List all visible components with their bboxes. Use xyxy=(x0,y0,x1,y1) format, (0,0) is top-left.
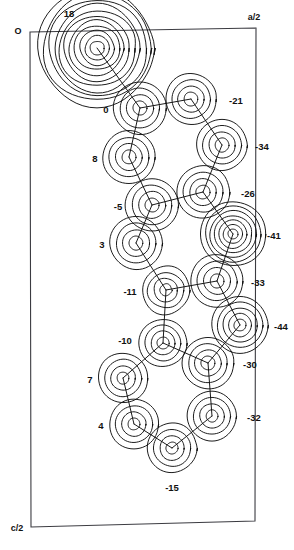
contour-map-canvas: 180-21-348-26-5-413-33-11-44-10-307-324-… xyxy=(0,0,294,550)
bond-line xyxy=(191,99,222,145)
atom-value-label: -15 xyxy=(165,482,179,493)
atom-value-labels: 180-21-348-26-5-413-33-11-44-10-307-324-… xyxy=(64,8,289,493)
atom-contour-18 xyxy=(38,0,156,108)
atom-value-label: -11 xyxy=(123,286,137,297)
atom-value-label: -30 xyxy=(243,359,257,370)
atom-value-label: -44 xyxy=(274,321,288,332)
origin-label: O xyxy=(14,26,21,36)
bond-line xyxy=(172,416,212,448)
contour-rings xyxy=(38,0,269,473)
atom-value-label: 18 xyxy=(64,8,75,19)
a-half-label: a/2 xyxy=(248,12,261,22)
bond-line xyxy=(136,205,152,243)
atom-value-label: 0 xyxy=(103,104,108,115)
unit-cell-outline xyxy=(30,28,256,527)
atom-value-label: 7 xyxy=(87,374,92,385)
atom-value-label: -21 xyxy=(229,95,243,106)
atom-value-label: 4 xyxy=(98,420,104,431)
bond-network xyxy=(97,48,240,448)
atom-value-label: -26 xyxy=(241,188,255,199)
contour-map-figure: 180-21-348-26-5-413-33-11-44-10-307-324-… xyxy=(0,0,294,550)
atom-value-label: -33 xyxy=(251,277,265,288)
bond-line xyxy=(163,290,166,343)
bond-line xyxy=(208,363,212,416)
atom-value-label: -41 xyxy=(267,230,281,241)
atom-value-label: -34 xyxy=(255,141,269,152)
atom-value-label: 3 xyxy=(99,239,104,250)
atom-value-label: 8 xyxy=(92,153,97,164)
bond-line xyxy=(134,424,172,448)
atom-value-label: -32 xyxy=(247,412,261,423)
atom-value-label: -5 xyxy=(114,201,123,212)
unit-cell-frame xyxy=(30,28,256,527)
atom-value-label: -10 xyxy=(118,335,132,346)
c-half-label: c/2 xyxy=(11,523,24,533)
